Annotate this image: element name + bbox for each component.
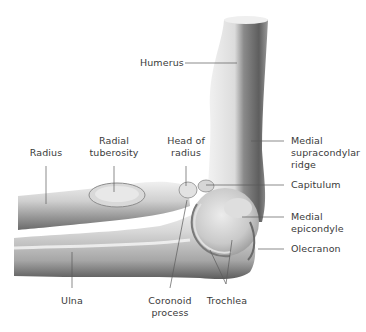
label-radial-tuberosity-line1: Radial <box>86 135 142 147</box>
label-olecranon: Olecranon <box>291 243 341 255</box>
label-medial-supracondylar-line3: ridge <box>291 159 360 171</box>
label-medial-supracondylar-line2: supracondylar <box>291 147 360 159</box>
label-humerus: Humerus <box>140 57 184 69</box>
label-radial-tuberosity-line2: tuberosity <box>86 147 142 159</box>
label-head-of-radius: Head of radius <box>160 135 212 159</box>
label-coronoid-process: Coronoid process <box>140 295 200 319</box>
label-medial-epicondyle: Medial epicondyle <box>291 211 344 235</box>
label-radius: Radius <box>22 147 70 159</box>
label-radial-tuberosity: Radial tuberosity <box>86 135 142 159</box>
label-medial-epicondyle-line2: epicondyle <box>291 223 344 235</box>
label-coronoid-process-line1: Coronoid <box>140 295 200 307</box>
label-trochlea: Trochlea <box>204 295 250 307</box>
label-head-of-radius-line1: Head of <box>160 135 212 147</box>
label-medial-epicondyle-line1: Medial <box>291 211 344 223</box>
label-medial-supracondylar-ridge: Medial supracondylar ridge <box>291 135 360 171</box>
elbow-anatomy-figure: Humerus Radius Radial tuberosity Head of… <box>0 0 366 332</box>
label-head-of-radius-line2: radius <box>160 147 212 159</box>
label-ulna: Ulna <box>50 295 94 307</box>
label-capitulum: Capitulum <box>291 179 341 191</box>
radius-bone <box>18 182 197 230</box>
label-medial-supracondylar-line1: Medial <box>291 135 360 147</box>
label-coronoid-process-line2: process <box>140 307 200 319</box>
